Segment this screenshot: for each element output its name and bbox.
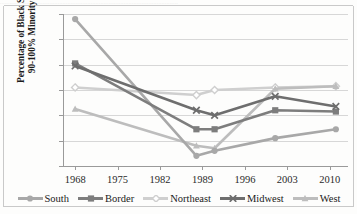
legend-swatch-west-icon [293,194,318,203]
legend-swatch-midwest-icon [220,194,245,203]
series-border [72,60,339,132]
plot-area: 20304050607080 1968197519821989199620032… [63,14,348,166]
series-lines [63,14,348,167]
x-tick-label: 1989 [179,174,225,185]
figure-border-bottom [3,206,354,207]
legend-item-border[interactable]: Border [78,193,134,204]
legend-item-west[interactable]: West [293,193,341,204]
legend-swatch-border-icon [78,194,103,203]
legend-label: Border [105,193,134,204]
x-tick-label: 1996 [222,174,268,185]
legend-swatch-northeast-icon [143,194,168,203]
chart-figure: ........................................… [0,0,357,214]
x-tick-label: 2010 [307,174,353,185]
legend-label: Midwest [247,193,284,204]
scan-rule [4,5,353,6]
figure-border-left [3,6,4,206]
x-tick-label: 2003 [264,174,310,185]
legend-item-south[interactable]: South [18,193,70,204]
y-axis-title: Percentage of Black Students in 90-100% … [14,0,40,102]
legend-swatch-south-icon [18,194,43,203]
legend-label: West [320,193,341,204]
legend-item-midwest[interactable]: Midwest [220,193,284,204]
legend-label: Northeast [170,193,211,204]
legend-label: South [45,193,70,204]
chart-legend: SouthBorderNortheastMidwestWest [18,191,340,206]
x-tick-label: 1975 [95,174,141,185]
figure-border-right [353,6,354,206]
x-tick-label: 1982 [137,174,183,185]
legend-item-northeast[interactable]: Northeast [143,193,211,204]
series-northeast [72,83,340,99]
x-tick-label: 1968 [52,174,98,185]
y-axis-title-line1: Percentage of Black Students in [16,0,26,83]
y-axis-title-line2: 90-100% Minority Schools [27,0,37,73]
